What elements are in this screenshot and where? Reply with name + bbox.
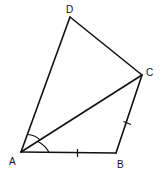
vertex-label-D: D — [66, 4, 73, 15]
angle-mark-DAC — [28, 135, 41, 141]
vertex-label-A: A — [9, 156, 16, 167]
vertex-label-C: C — [146, 67, 153, 78]
geometry-diagram: A B C D — [0, 0, 164, 179]
vertex-label-B: B — [117, 159, 124, 170]
tick-mark-BC — [124, 122, 132, 125]
segment-CD — [70, 17, 142, 75]
segment-AB — [21, 152, 116, 153]
segment-BC — [116, 75, 142, 153]
diagonal-AC — [21, 75, 142, 152]
angle-mark-CAB — [38, 142, 49, 153]
segment-DA — [21, 17, 70, 152]
